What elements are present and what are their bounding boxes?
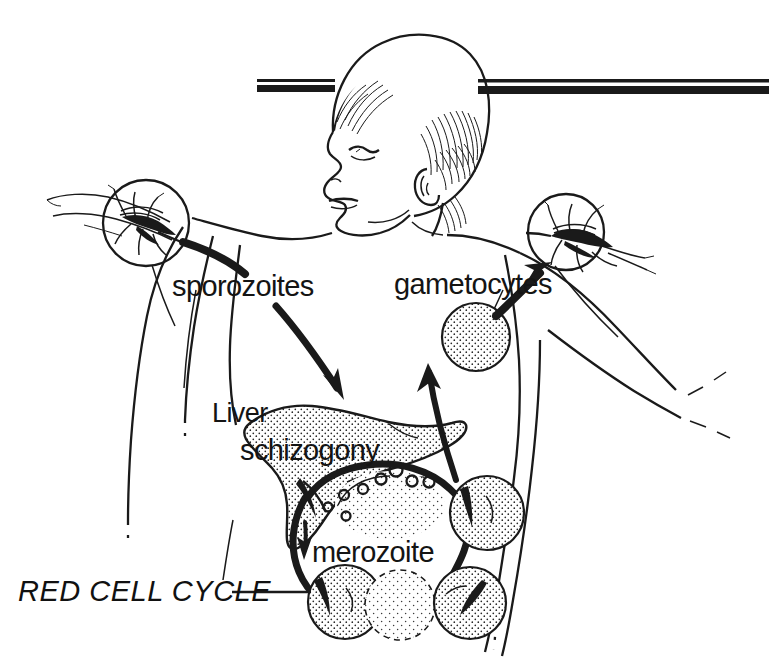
label-red-cell-cycle: RED CELL CYCLE: [18, 575, 271, 607]
malaria-life-cycle-figure: sporozoites gametocytes Liver schizogony…: [0, 0, 769, 664]
label-merozoite: merozoite: [312, 536, 434, 568]
label-schizogony: schizogony: [240, 434, 380, 466]
double-rule-bar: [257, 79, 769, 94]
figure-canvas: sporozoites gametocytes Liver schizogony…: [0, 0, 769, 664]
blood-schizont: [335, 471, 445, 539]
label-sporozoites: sporozoites: [172, 270, 314, 302]
infected-red-cell-3: [450, 476, 524, 550]
uninfected-red-cell: [365, 570, 435, 640]
label-liver: Liver: [212, 398, 268, 428]
label-gametocytes: gametocytes: [394, 268, 552, 300]
